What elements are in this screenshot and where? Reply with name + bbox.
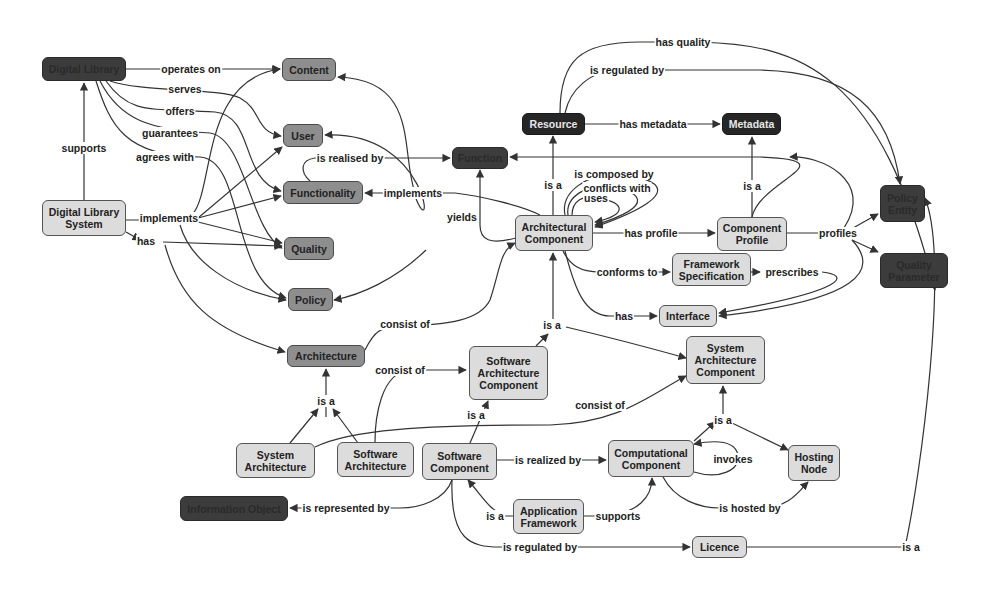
edge-label: is a (901, 541, 921, 553)
edge-label: serves (167, 83, 202, 95)
node-label: Metadata (729, 118, 775, 130)
edge-label: is a (485, 510, 505, 522)
edge-label: implements (383, 187, 443, 199)
edge-label: is composed by (573, 168, 654, 180)
node-interface[interactable]: Interface (659, 305, 717, 327)
node-label: System Architecture (241, 449, 310, 473)
node-architecture[interactable]: Architecture (287, 345, 365, 367)
edge-label: prescribes (764, 266, 819, 278)
node-sw-arch-component[interactable]: Software Architecture Component (469, 346, 548, 400)
node-hosting-node[interactable]: Hosting Node (788, 445, 840, 481)
edge-label: offers (164, 105, 195, 117)
node-component-profile[interactable]: Component Profile (717, 217, 787, 251)
edge-label: is a (466, 409, 486, 421)
edge-label: has (136, 235, 156, 247)
node-label: Resource (530, 118, 578, 130)
node-metadata[interactable]: Metadata (722, 113, 781, 135)
node-label: Digital Library (49, 63, 120, 75)
edge-label: is a (543, 179, 563, 191)
node-functionality[interactable]: Functionality (283, 181, 363, 204)
node-label: Content (289, 64, 329, 76)
node-content[interactable]: Content (282, 58, 336, 81)
edge-label: consist of (574, 399, 626, 411)
node-software-architecture[interactable]: Software Architecture (337, 442, 414, 477)
node-application-framework[interactable]: Application Framework (513, 499, 584, 534)
edge-connector (480, 170, 516, 241)
edge-label: consist of (379, 318, 431, 330)
concept-map: operates onservesoffersguaranteesagrees … (0, 0, 996, 591)
node-digital-library[interactable]: Digital Library (42, 57, 126, 81)
edge-label: has quality (655, 36, 712, 48)
edge-label: uses (583, 192, 609, 204)
node-label: Policy (295, 294, 326, 306)
edge-label: implements (139, 212, 199, 224)
edges-layer (0, 0, 996, 591)
edge-connector (375, 370, 466, 442)
edge-connector (365, 243, 515, 350)
node-information-object[interactable]: Information Object (180, 496, 288, 521)
edge-label: profiles (818, 227, 858, 239)
edge-connector (694, 422, 715, 441)
edge-label: is a (742, 180, 762, 192)
node-software-component[interactable]: Software Component (422, 443, 497, 480)
node-function[interactable]: Function (452, 147, 508, 169)
edge-connector (470, 401, 488, 443)
edge-label: is a (542, 319, 562, 331)
edge-connector (334, 250, 426, 300)
edge-connector (852, 240, 878, 252)
edge-label: guarantees (141, 127, 199, 139)
node-label: Quality Parameter (885, 259, 943, 283)
edge-connector (566, 327, 686, 358)
node-label: Software Architecture (342, 448, 409, 472)
edge-connector (333, 409, 358, 443)
edge-label: has (614, 310, 634, 322)
edge-connector (163, 242, 282, 246)
node-label: Hosting Node (793, 451, 835, 475)
edge-connector (853, 214, 878, 228)
node-label: Architectural Component (520, 221, 588, 245)
node-policy-entity[interactable]: Policy Entity (880, 185, 925, 222)
node-dls[interactable]: Digital Library System (42, 200, 126, 236)
node-computational-component[interactable]: Computational Component (608, 440, 694, 477)
node-label: Framework Specification (677, 258, 746, 282)
node-label: Licence (700, 541, 739, 553)
node-user[interactable]: User (283, 124, 323, 147)
edge-label: invokes (712, 453, 753, 465)
node-quality[interactable]: Quality (284, 237, 334, 260)
edge-label: operates on (160, 63, 222, 75)
edge-connector (192, 69, 280, 215)
edge-label: is realized by (514, 454, 582, 466)
node-label: Information Object (187, 503, 280, 515)
node-label: Software Component (427, 450, 492, 474)
edge-connector (536, 334, 548, 346)
edge-label: yields (446, 211, 478, 223)
edge-connector (732, 423, 788, 450)
edge-connector (338, 77, 415, 193)
edge-label: supports (61, 142, 108, 154)
node-sys-arch-component[interactable]: System Architecture Component (686, 336, 765, 384)
edge-label: has profile (623, 227, 678, 239)
node-label: Architecture (295, 350, 357, 362)
node-system-architecture[interactable]: System Architecture (236, 443, 315, 478)
node-resource[interactable]: Resource (522, 113, 585, 135)
node-framework-spec[interactable]: Framework Specification (672, 253, 751, 286)
edge-label: is realised by (316, 152, 385, 164)
edge-label: is regulated by (502, 541, 578, 553)
node-label: Quality (291, 243, 327, 255)
node-quality-parameter[interactable]: Quality Parameter (880, 253, 948, 288)
node-label: Digital Library System (47, 206, 121, 230)
node-label: System Architecture Component (691, 342, 760, 378)
edge-label: is a (316, 395, 336, 407)
node-arch-component[interactable]: Architectural Component (515, 215, 593, 251)
edge-label: is regulated by (589, 64, 665, 76)
node-label: Interface (666, 310, 710, 322)
node-label: Policy Entity (885, 192, 920, 216)
node-licence[interactable]: Licence (692, 536, 747, 558)
edge-label: conforms to (596, 266, 659, 278)
edge-connector (565, 251, 657, 316)
edge-label: is represented by (302, 502, 391, 514)
edge-label: is a (713, 414, 733, 426)
node-policy[interactable]: Policy (288, 288, 333, 311)
node-label: Function (458, 152, 502, 164)
node-label: User (291, 130, 314, 142)
